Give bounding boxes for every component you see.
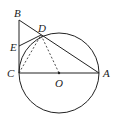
label-b: B — [14, 7, 21, 19]
point-o-dot — [58, 72, 60, 74]
label-a: A — [102, 67, 110, 79]
label-d: D — [37, 22, 46, 34]
label-e: E — [9, 41, 17, 53]
segment-ba — [19, 20, 99, 73]
label-o: O — [55, 77, 63, 89]
label-c: C — [7, 67, 15, 79]
geometry-diagram: B D E C O A — [0, 0, 118, 128]
